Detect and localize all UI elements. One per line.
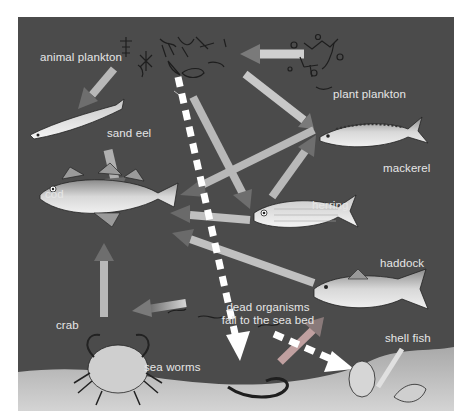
arrow-crab-to-cod <box>94 243 114 317</box>
food-web-diagram: animal plankton plant plankton sand eel … <box>18 17 454 411</box>
arrow-plant-to-animal-plankton <box>240 44 304 64</box>
label-sand-eel: sand eel <box>107 127 151 140</box>
sea-bed <box>18 347 454 411</box>
arrow-sea-worms-to-crab <box>132 299 186 317</box>
arrow-haddock-to-cod <box>172 229 314 283</box>
plant-plankton-icon <box>288 35 343 90</box>
animal-plankton-icon <box>120 37 226 78</box>
label-mackerel: mackerel <box>383 162 430 175</box>
label-animal-plankton: animal plankton <box>40 51 122 64</box>
label-cod: cod <box>45 188 64 201</box>
mackerel-icon <box>320 117 428 147</box>
arrow-plant-plankton-to-mackerel <box>245 74 314 129</box>
label-crab: crab <box>56 319 79 332</box>
arrow-animal-plankton-to-sand-eel <box>78 69 114 109</box>
haddock-icon <box>314 269 428 309</box>
label-dead-organisms-line1: dead organisms <box>208 301 328 314</box>
label-dead-organisms: dead organisms fall to the sea bed <box>208 301 328 327</box>
label-haddock: haddock <box>380 257 424 270</box>
label-dead-organisms-line2: fall to the sea bed <box>208 314 328 327</box>
label-shell-fish: shell fish <box>385 332 431 345</box>
label-plant-plankton: plant plankton <box>333 88 406 101</box>
label-herring: herring <box>312 199 349 212</box>
label-sea-worms: sea worms <box>144 361 201 374</box>
